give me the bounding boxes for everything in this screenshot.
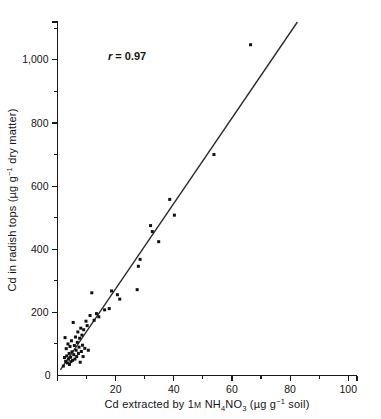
- data-point: [70, 339, 73, 342]
- data-point: [64, 336, 67, 339]
- y-axis-title: Cd in radish tops (µg g−1 dry matter): [5, 108, 18, 291]
- data-point: [69, 356, 72, 359]
- r-equals: =: [112, 50, 125, 62]
- x-title-nh: NH: [205, 398, 221, 410]
- data-point: [212, 153, 215, 156]
- x-tick-label: 80: [284, 383, 296, 395]
- data-point: [82, 328, 85, 331]
- data-point: [168, 198, 171, 201]
- data-point: [71, 350, 74, 353]
- y-tick-label: 400: [31, 243, 49, 255]
- x-tick-label: 0: [45, 369, 51, 381]
- y-tick-label: 1,000: [22, 53, 48, 65]
- data-point: [81, 344, 84, 347]
- x-tick-label: 40: [168, 383, 180, 395]
- data-point: [77, 352, 80, 355]
- data-point: [80, 334, 83, 337]
- data-point: [95, 312, 98, 315]
- data-point: [72, 353, 75, 356]
- data-point: [137, 265, 140, 268]
- data-point: [69, 345, 72, 348]
- data-point: [87, 349, 90, 352]
- x-title-molar: M: [194, 400, 201, 410]
- x-axis-tick-labels: 020406080100: [45, 369, 358, 395]
- data-point: [68, 352, 71, 355]
- data-point: [151, 230, 154, 233]
- y-axis-tick-labels: 2004006008001,000: [22, 53, 48, 318]
- x-title-units-close: soil): [285, 398, 309, 410]
- x-tick-label: 20: [110, 383, 122, 395]
- r-value: 0.97: [125, 50, 146, 62]
- y-title-tail: dry matter): [6, 108, 18, 167]
- data-point: [82, 355, 85, 358]
- data-point: [249, 43, 252, 46]
- y-tick-label: 600: [31, 180, 49, 192]
- data-point-series: [62, 43, 252, 367]
- data-point: [83, 347, 86, 350]
- data-point: [103, 308, 106, 311]
- data-point: [173, 214, 176, 217]
- data-point: [139, 258, 142, 261]
- data-point: [116, 293, 119, 296]
- data-point: [74, 335, 77, 338]
- data-point: [80, 350, 83, 353]
- y-title-units-sup: −1: [5, 167, 14, 176]
- data-point: [75, 349, 78, 352]
- scatter-plot-figure: 020406080100 2004006008001,000 r = 0.97 …: [0, 0, 381, 419]
- data-point: [78, 337, 81, 340]
- axis-spines: [58, 22, 358, 376]
- data-point: [79, 361, 82, 364]
- regression-line: [60, 22, 297, 370]
- data-point: [89, 314, 92, 317]
- x-title-units-open: (µg g: [247, 398, 277, 410]
- x-axis-title: Cd extracted by 1M NH4NO3 (µg g−1 soil): [104, 397, 309, 413]
- plot-canvas: 020406080100 2004006008001,000 r = 0.97 …: [0, 0, 381, 419]
- data-point: [108, 307, 111, 310]
- data-point: [110, 289, 113, 292]
- x-title-units-sup: −1: [276, 397, 285, 406]
- x-title-no: NO: [225, 398, 242, 410]
- data-point: [62, 365, 65, 368]
- x-title-lead: Cd extracted by: [104, 398, 187, 410]
- data-point: [86, 324, 89, 327]
- data-point: [93, 319, 96, 322]
- data-point: [157, 240, 160, 243]
- y-axis-ticks: [52, 22, 58, 344]
- regression-line-segment: [60, 22, 297, 370]
- data-point: [136, 288, 139, 291]
- y-title-lead: Cd in radish tops (µg g: [6, 176, 18, 292]
- x-tick-label: 100: [340, 383, 358, 395]
- data-point: [118, 298, 121, 301]
- data-point: [65, 347, 68, 350]
- y-tick-label: 800: [31, 117, 49, 129]
- x-tick-label: 60: [226, 383, 238, 395]
- data-point: [97, 315, 100, 318]
- data-point: [84, 320, 87, 323]
- data-point: [79, 327, 82, 330]
- y-tick-label: 200: [31, 306, 49, 318]
- data-point: [75, 355, 78, 358]
- data-point: [76, 330, 79, 333]
- data-point: [149, 224, 152, 227]
- correlation-annotation: r = 0.97: [108, 50, 146, 62]
- data-point: [72, 321, 75, 324]
- data-point: [68, 363, 71, 366]
- x-axis-ticks: [58, 376, 358, 382]
- data-point: [78, 346, 81, 349]
- data-point: [73, 344, 76, 347]
- data-point: [76, 341, 79, 344]
- data-point: [90, 291, 93, 294]
